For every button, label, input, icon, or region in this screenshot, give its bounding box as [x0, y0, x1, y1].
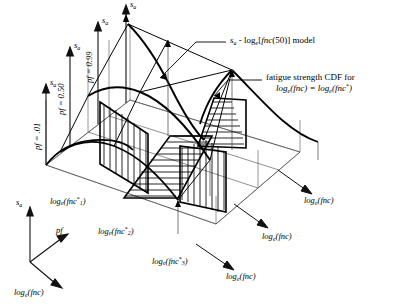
diagram-vector-graphics	[0, 0, 401, 307]
axis-label-sa-pf050: sa	[74, 41, 80, 51]
pf-label-text-099: pf = 0.99	[84, 52, 94, 83]
log-head: log	[98, 226, 109, 236]
log-head: log	[50, 196, 61, 206]
sa-subscript: a	[19, 202, 22, 208]
fnc-open: (fnc	[332, 83, 346, 93]
log-head: log	[304, 195, 315, 205]
sa-subscript: a	[105, 20, 108, 26]
axis-arrow-fnc-right-lower	[234, 204, 268, 228]
pf-label-text-050: pf = 0.50	[56, 84, 66, 115]
fnc-open: (fnc	[166, 256, 179, 266]
pf-plane-label-050: pf = 0.50	[57, 84, 66, 115]
fnc-open: (fnc	[64, 196, 77, 206]
cdf-callout-line2: loge(fnc) = loge(fnc*)	[266, 83, 355, 95]
model-tail: (50)] model	[272, 35, 315, 45]
fnc-close: )	[185, 256, 188, 266]
sn-curve-surface-front	[46, 140, 133, 165]
triad-label-sa: sa	[16, 198, 22, 208]
sa-subscript: a	[133, 4, 136, 10]
fnc-tail: (fnc)	[276, 231, 292, 241]
axis-label-sa-pftop: sa	[130, 0, 136, 10]
axis-arrow-fnc-right-upper	[278, 170, 312, 194]
sn-curve-pf-099	[128, 24, 204, 140]
triad-label-pf: pf	[56, 226, 63, 235]
axis-label-fnc-bottom: loge(fnc)	[226, 272, 256, 282]
log-head: log	[276, 83, 288, 93]
axis-label-fnc-right-upper: loge(fnc)	[304, 196, 334, 206]
fnc-close: )	[131, 226, 134, 236]
axis-triad-legend	[27, 207, 68, 288]
axis-label-fnc-right-lower: loge(fnc)	[262, 232, 292, 242]
figure-canvas: pf = .01 pf = 0.50 pf = 0.99 sa sa sa sa…	[0, 0, 401, 307]
log-head: log	[226, 271, 237, 281]
log-head: log	[262, 231, 273, 241]
fnc-close: )	[83, 196, 86, 206]
label-fnc-star-2: loge(fnc*2)	[98, 226, 134, 236]
annotation-model-callout: sa - loge[fnc(50)] model	[230, 35, 315, 47]
label-fnc-star-3: loge(fnc*3)	[152, 256, 188, 266]
axis-arrow-pf-001	[43, 84, 50, 165]
pf-symbol: pf	[56, 225, 63, 235]
log-head: log	[152, 256, 163, 266]
model-dash: - log	[237, 35, 256, 45]
fnc-tail: (fnc)	[28, 287, 44, 297]
cdf-callout-line1: fatigue strength CDF for	[266, 72, 355, 83]
axis-arrow-fnc-bottom	[196, 244, 234, 270]
triad-label-fnc: loge(fnc)	[14, 288, 44, 298]
pf-label-text-001: pf = .01	[32, 123, 42, 150]
axis-label-sa-pf099: sa	[102, 16, 108, 26]
fnc-open: (fnc	[112, 226, 125, 236]
label-fnc-star-1: loge(fnc*1)	[50, 196, 86, 206]
fnc-italic: fnc	[261, 35, 272, 45]
cdf-equality: (fnc) = log	[290, 83, 329, 93]
pf-plane-label-099: pf = 0.99	[85, 52, 94, 83]
fnc-close: )	[349, 83, 352, 93]
sa-subscript: a	[77, 45, 80, 51]
pf-plane-label-001: pf = .01	[33, 123, 42, 150]
annotation-cdf-callout: fatigue strength CDF for loge(fnc) = log…	[266, 72, 355, 95]
axis-label-sa-pf001: sa	[50, 78, 56, 88]
log-head: log	[14, 287, 25, 297]
fnc-tail: (fnc)	[318, 195, 334, 205]
fnc-tail: (fnc)	[240, 271, 256, 281]
sa-subscript: a	[53, 82, 56, 88]
